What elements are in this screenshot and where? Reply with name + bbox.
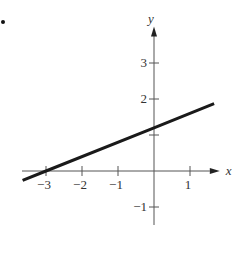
x-tick-label: −3 bbox=[37, 177, 51, 192]
chart-plot: xy−3−2−11−123 bbox=[0, 0, 246, 271]
x-tick-label: 1 bbox=[185, 177, 192, 192]
y-tick-label: 3 bbox=[141, 55, 148, 70]
x-tick-label: −1 bbox=[109, 177, 123, 192]
y-tick-label: 2 bbox=[141, 91, 148, 106]
x-axis-label: x bbox=[225, 163, 232, 178]
x-axis-arrow-icon bbox=[210, 168, 220, 174]
y-axis-label: y bbox=[146, 11, 154, 26]
y-tick-label: −1 bbox=[133, 199, 147, 214]
y-axis-arrow-icon bbox=[151, 27, 157, 37]
x-tick-label: −2 bbox=[73, 177, 87, 192]
